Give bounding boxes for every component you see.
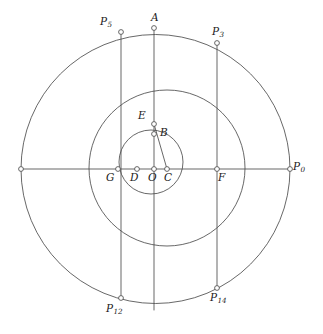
point-label-p5: P5 <box>100 16 112 27</box>
point-label-p0: P0 <box>293 161 305 172</box>
point-marker-b <box>152 132 157 137</box>
point-label-p3: P3 <box>212 26 224 37</box>
point-marker-p0 <box>288 167 293 172</box>
point-label-c: C <box>164 172 172 183</box>
point-marker-p5 <box>119 30 124 35</box>
point-label-o: O <box>148 172 157 183</box>
point-label-g: G <box>106 172 114 183</box>
geometry-figure: P5 A P3 P0 E B G D O C F P12 P14 <box>0 0 323 334</box>
point-label-b: B <box>160 127 168 138</box>
point-label-a: A <box>151 12 159 23</box>
point-label-p12: P12 <box>106 303 122 314</box>
small-circle <box>119 130 183 194</box>
point-marker-p3 <box>215 41 220 46</box>
geometry-canvas <box>0 0 323 334</box>
point-label-f: F <box>218 172 225 183</box>
point-label-d: D <box>130 172 138 183</box>
point-label-e: E <box>138 110 146 121</box>
point-marker-p14 <box>215 286 220 291</box>
point-marker-g <box>116 167 121 172</box>
point-marker-left-vertex <box>19 167 24 172</box>
point-label-p14: P14 <box>210 292 226 303</box>
point-marker-p12 <box>119 296 124 301</box>
point-marker-a <box>152 26 157 31</box>
point-marker-e <box>152 122 157 127</box>
